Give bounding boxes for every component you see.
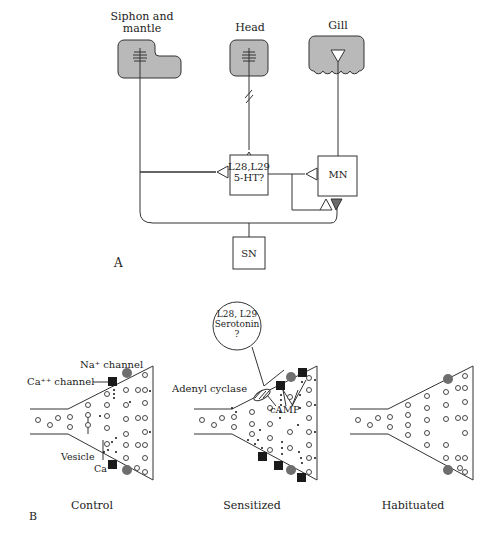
- adenyl-cyclase-label: Adenyl cyclase: [172, 383, 247, 394]
- interneuron-label-line1: L28,L29: [228, 161, 270, 172]
- condition-control: Control: [71, 500, 113, 512]
- na-channel-label: Na⁺ channel: [80, 359, 143, 370]
- serotonin-bubble-text: L28, L29 Serotonin ?: [215, 310, 260, 340]
- adenyl-cyclase-coil: [252, 387, 272, 403]
- gill-label: Gill: [328, 20, 347, 32]
- panel-a-label: A: [114, 257, 123, 270]
- siphon-mantle-organ: [118, 40, 181, 78]
- siphon-label-line2: mantle: [110, 23, 173, 35]
- vesicles: [36, 373, 468, 475]
- motor-neuron-label: MN: [329, 169, 348, 180]
- ca-ion-label: Ca⁺⁺: [94, 464, 117, 474]
- bubble-line3: ?: [215, 330, 260, 340]
- vesicle-label: Vesicle: [61, 452, 95, 462]
- channels: [108, 368, 453, 482]
- camp-label: cAMP: [270, 404, 300, 415]
- aplysia-gill-withdrawal-figure: Siphon and mantle Head Gill L28,L29 5-HT…: [0, 0, 497, 534]
- siphon-mantle-label: Siphon and mantle: [110, 11, 173, 35]
- head-label: Head: [235, 22, 265, 34]
- interneuron-label-line2: 5-HT?: [228, 172, 270, 183]
- sensory-neuron-label: SN: [241, 248, 257, 259]
- condition-sensitized: Sensitized: [223, 500, 281, 512]
- ca-channel-label: Ca⁺⁺ channel: [27, 376, 94, 387]
- condition-habituated: Habituated: [382, 500, 445, 512]
- panel-b-label: B: [29, 511, 37, 523]
- interneuron-label: L28,L29 5-HT?: [228, 161, 270, 183]
